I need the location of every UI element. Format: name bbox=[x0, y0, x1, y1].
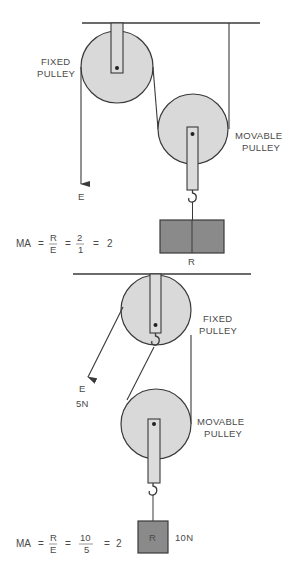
movable-pulley-label-line2: PULLEY bbox=[242, 142, 281, 153]
fixed-pulley-label-line2: PULLEY bbox=[37, 68, 76, 79]
eq-sign: = bbox=[65, 538, 71, 549]
eq-result: 2 bbox=[116, 538, 122, 549]
movable-pulley-strap bbox=[187, 127, 198, 190]
movable-pulley-label-line2: PULLEY bbox=[204, 428, 243, 439]
movable-pulley-label-line1: MOVABLE bbox=[235, 130, 282, 141]
pulley-diagram: FIXED PULLEY MOVABLE PULLEY E R MA = R E… bbox=[0, 0, 299, 563]
fixed-pulley-label-line2: PULLEY bbox=[199, 325, 238, 336]
frac-numerator: R bbox=[50, 532, 57, 543]
connecting-rope bbox=[153, 67, 158, 129]
fixed-pulley-axle bbox=[154, 323, 158, 327]
ma-equation-top: MA = R E = 2 1 = 2 bbox=[16, 232, 113, 255]
frac-denominator: 1 bbox=[78, 244, 83, 255]
fixed-pulley-label-line1: FIXED bbox=[41, 56, 70, 67]
frac-numerator: 10 bbox=[80, 532, 91, 543]
eq-lhs: MA bbox=[16, 538, 31, 549]
effort-label: E bbox=[78, 191, 85, 202]
frac-denominator: E bbox=[50, 544, 56, 555]
eq-sign: = bbox=[93, 238, 99, 249]
load-value: 10N bbox=[175, 532, 193, 543]
eq-sign: = bbox=[38, 238, 44, 249]
frac-numerator: 2 bbox=[77, 232, 82, 243]
movable-pulley-axle bbox=[191, 132, 195, 136]
eq-sign: = bbox=[104, 538, 110, 549]
load-label: R bbox=[149, 532, 156, 543]
frac-denominator: E bbox=[50, 244, 56, 255]
movable-pulley-label-line1: MOVABLE bbox=[197, 416, 244, 427]
eq-lhs: MA bbox=[16, 238, 31, 249]
top-diagram: FIXED PULLEY MOVABLE PULLEY E R MA = R E… bbox=[16, 23, 282, 267]
eq-sign: = bbox=[38, 538, 44, 549]
movable-pulley-strap bbox=[148, 419, 160, 483]
movable-pulley-axle bbox=[152, 422, 156, 426]
fixed-pulley-strap bbox=[111, 23, 123, 73]
effort-rope bbox=[88, 307, 123, 377]
hook-icon bbox=[189, 190, 197, 202]
frac-denominator: 5 bbox=[84, 544, 89, 555]
load-label: R bbox=[188, 256, 195, 267]
bottom-diagram: FIXED PULLEY MOVABLE PULLEY E 5N R 10N M… bbox=[16, 274, 251, 555]
fixed-pulley-label-line1: FIXED bbox=[203, 313, 232, 324]
eq-result: 2 bbox=[107, 238, 113, 249]
effort-value: 5N bbox=[76, 398, 89, 409]
ma-equation-bottom: MA = R E = 10 5 = 2 bbox=[16, 532, 122, 555]
effort-label: E bbox=[79, 383, 86, 394]
hook-icon bbox=[149, 483, 157, 495]
fixed-pulley-axle bbox=[115, 66, 119, 70]
eq-sign: = bbox=[65, 238, 71, 249]
frac-numerator: R bbox=[50, 232, 57, 243]
